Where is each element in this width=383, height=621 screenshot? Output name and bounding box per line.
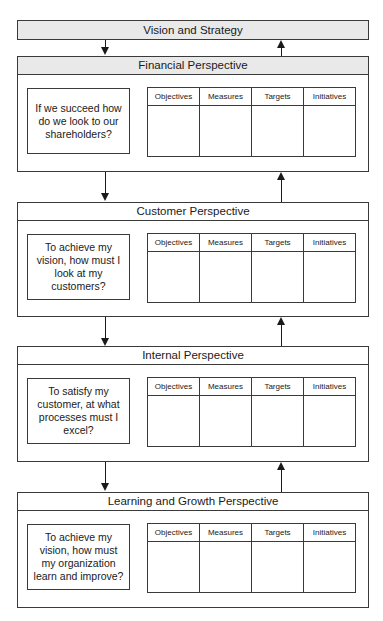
column-header-objectives: Objectives bbox=[148, 234, 200, 252]
arrow-up-icon bbox=[277, 317, 285, 325]
arrow-down-icon bbox=[101, 338, 109, 346]
perspective-question: To satisfy my customer, at what processe… bbox=[27, 378, 130, 444]
vision-and-strategy-box: Vision and Strategy bbox=[17, 20, 369, 40]
table-cell bbox=[200, 396, 252, 447]
column-header-measures: Measures bbox=[200, 524, 252, 542]
column-header-measures: Measures bbox=[200, 234, 252, 252]
column-header-targets: Targets bbox=[252, 524, 304, 542]
perspective-table: Objectives Measures Targets Initiatives bbox=[147, 523, 356, 593]
table-cell bbox=[252, 106, 304, 157]
perspective-table: Objectives Measures Targets Initiatives bbox=[147, 377, 356, 447]
column-header-objectives: Objectives bbox=[148, 88, 200, 106]
column-header-measures: Measures bbox=[200, 378, 252, 396]
perspective-question: If we succeed how do we look to our shar… bbox=[27, 88, 130, 154]
table-cell bbox=[304, 106, 356, 157]
column-header-initiatives: Initiatives bbox=[304, 234, 356, 252]
perspective-question: To achieve my vision, how must my organi… bbox=[27, 524, 130, 590]
customer-perspective-box: Customer Perspective To achieve my visio… bbox=[17, 202, 369, 317]
arrow-up-icon bbox=[277, 40, 285, 48]
connector-line bbox=[281, 468, 282, 492]
connector-line bbox=[105, 317, 106, 339]
column-header-targets: Targets bbox=[252, 378, 304, 396]
internal-perspective-box: Internal Perspective To satisfy my custo… bbox=[17, 346, 369, 462]
perspective-question: To achieve my vision, how must I look at… bbox=[27, 234, 130, 300]
connector-line bbox=[281, 178, 282, 202]
connector-line bbox=[105, 172, 106, 194]
table-cell bbox=[200, 252, 252, 303]
column-header-initiatives: Initiatives bbox=[304, 88, 356, 106]
table-cell bbox=[148, 252, 200, 303]
perspective-table: Objectives Measures Targets Initiatives bbox=[147, 87, 356, 157]
perspective-table: Objectives Measures Targets Initiatives bbox=[147, 233, 356, 303]
connector-line bbox=[281, 48, 282, 56]
perspective-title: Internal Perspective bbox=[18, 347, 368, 365]
table-cell bbox=[252, 542, 304, 593]
learning-growth-perspective-box: Learning and Growth Perspective To achie… bbox=[17, 492, 369, 608]
perspective-title: Financial Perspective bbox=[18, 57, 368, 75]
perspective-title: Customer Perspective bbox=[18, 203, 368, 221]
table-cell bbox=[252, 252, 304, 303]
column-header-objectives: Objectives bbox=[148, 378, 200, 396]
column-header-measures: Measures bbox=[200, 88, 252, 106]
table-cell bbox=[304, 542, 356, 593]
column-header-objectives: Objectives bbox=[148, 524, 200, 542]
column-header-targets: Targets bbox=[252, 234, 304, 252]
arrow-down-icon bbox=[101, 47, 109, 55]
table-cell bbox=[148, 396, 200, 447]
column-header-initiatives: Initiatives bbox=[304, 378, 356, 396]
table-cell bbox=[304, 252, 356, 303]
financial-perspective-box: Financial Perspective If we succeed how … bbox=[17, 56, 369, 172]
table-cell bbox=[252, 396, 304, 447]
connector-line bbox=[281, 323, 282, 347]
perspective-title: Learning and Growth Perspective bbox=[18, 493, 368, 511]
table-cell bbox=[304, 396, 356, 447]
arrow-up-icon bbox=[277, 172, 285, 180]
column-header-targets: Targets bbox=[252, 88, 304, 106]
connector-line bbox=[105, 462, 106, 484]
column-header-initiatives: Initiatives bbox=[304, 524, 356, 542]
arrow-down-icon bbox=[101, 193, 109, 201]
table-cell bbox=[148, 106, 200, 157]
arrow-down-icon bbox=[101, 483, 109, 491]
table-cell bbox=[200, 106, 252, 157]
table-cell bbox=[148, 542, 200, 593]
arrow-up-icon bbox=[277, 462, 285, 470]
table-cell bbox=[200, 542, 252, 593]
